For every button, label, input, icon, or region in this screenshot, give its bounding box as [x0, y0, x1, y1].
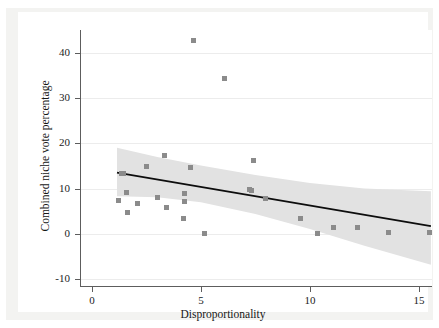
x-tick-label: 15 — [404, 295, 434, 306]
plot-area — [81, 30, 432, 286]
data-point — [191, 38, 196, 43]
x-tick — [201, 286, 202, 292]
data-point — [188, 165, 193, 170]
data-point — [298, 216, 303, 221]
data-point — [222, 76, 227, 81]
x-tick — [419, 286, 420, 292]
plot-card: -10010203040 051015 Disproportionality C… — [18, 12, 428, 312]
data-point — [116, 198, 121, 203]
data-point — [251, 158, 256, 163]
y-tick — [75, 234, 81, 235]
data-point — [386, 230, 391, 235]
data-point — [181, 216, 186, 221]
top-bleed-text — [118, 0, 328, 8]
x-tick — [92, 286, 93, 292]
data-point — [263, 196, 268, 201]
data-point — [182, 199, 187, 204]
data-point — [162, 153, 167, 158]
x-axis-spine — [80, 286, 432, 287]
data-point — [182, 191, 187, 196]
data-point — [124, 190, 129, 195]
y-axis-label: Combined niche vote percentage — [39, 41, 51, 271]
data-point — [144, 164, 149, 169]
data-point — [135, 201, 140, 206]
data-point — [121, 171, 126, 176]
x-tick — [310, 286, 311, 292]
data-point — [355, 225, 360, 230]
y-tick — [75, 98, 81, 99]
y-tick — [75, 279, 81, 280]
data-point — [202, 231, 207, 236]
y-axis-spine — [80, 30, 81, 286]
figure-scatter-plot: -10010203040 051015 Disproportionality C… — [0, 0, 439, 328]
y-tick-label: -10 — [36, 273, 70, 284]
y-tick — [75, 189, 81, 190]
data-point — [315, 231, 320, 236]
y-tick — [75, 53, 81, 54]
data-point — [155, 195, 160, 200]
data-point — [125, 210, 130, 215]
y-tick — [75, 143, 81, 144]
x-tick-label: 10 — [295, 295, 325, 306]
x-axis-label: Disproportionality — [18, 308, 428, 320]
data-point — [427, 230, 432, 235]
x-tick-label: 0 — [77, 295, 107, 306]
data-point — [331, 225, 336, 230]
data-point — [164, 205, 169, 210]
x-tick-label: 5 — [186, 295, 216, 306]
data-point — [249, 188, 254, 193]
